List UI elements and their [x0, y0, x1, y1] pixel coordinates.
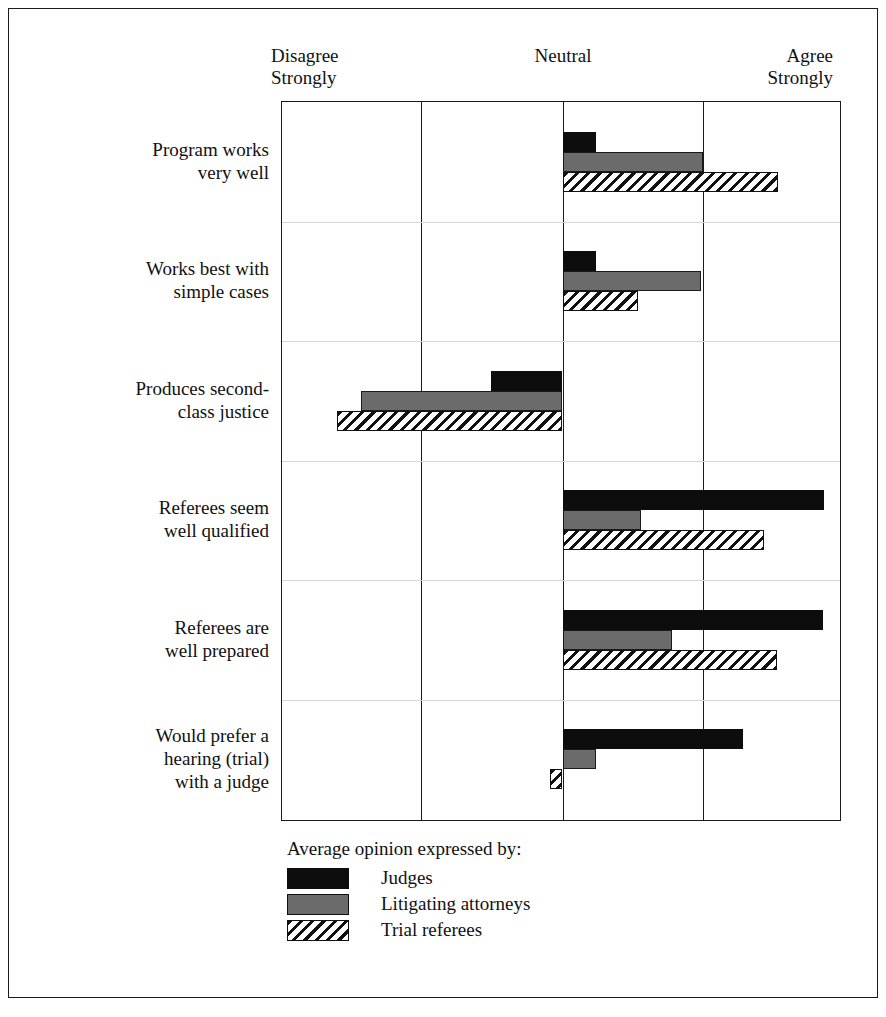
bar-judges: [563, 610, 823, 630]
row-separator: [282, 461, 840, 462]
category-label: Would prefer a hearing (trial) with a ju…: [64, 724, 269, 793]
category-label: Program works very well: [64, 138, 269, 184]
legend-swatch-judges: [287, 868, 349, 889]
legend-label: Litigating attorneys: [381, 893, 530, 915]
bar-attorneys: [361, 391, 563, 411]
bar-attorneys: [563, 510, 641, 530]
bar-referees: [563, 172, 779, 192]
bar-judges: [563, 729, 744, 749]
legend: Average opinion expressed by: JudgesLiti…: [287, 837, 707, 943]
bar-attorneys: [563, 630, 672, 650]
category-label: Works best with simple cases: [64, 257, 269, 303]
figure-frame: Disagree Strongly Neutral Agree Strongly…: [8, 8, 878, 998]
bar-referees: [563, 530, 765, 550]
legend-label: Trial referees: [381, 919, 482, 941]
legend-swatch-attorneys: [287, 894, 349, 915]
row-separator: [282, 222, 840, 223]
category-label: Referees seem well qualified: [64, 496, 269, 542]
legend-label: Judges: [381, 867, 433, 889]
legend-entry: Trial referees: [287, 917, 707, 943]
bar-referees: [563, 650, 777, 670]
bar-attorneys: [563, 152, 703, 172]
legend-rows: JudgesLitigating attorneysTrial referees: [287, 865, 707, 943]
axis-label-agree-strongly: Agree Strongly: [709, 45, 833, 89]
row-separator: [282, 700, 840, 701]
legend-title: Average opinion expressed by:: [287, 837, 707, 861]
category-label: Referees are well prepared: [64, 616, 269, 662]
plot-area: [281, 101, 841, 821]
bar-judges: [563, 490, 825, 510]
axis-label-disagree-strongly: Disagree Strongly: [271, 45, 421, 89]
category-label: Produces second- class justice: [64, 377, 269, 423]
category-label-column: Program works very wellWorks best with s…: [64, 101, 269, 821]
bar-referees: [337, 411, 562, 431]
bar-referees: [563, 291, 639, 311]
legend-swatch-referees: [287, 920, 349, 941]
bar-referees: [550, 769, 563, 789]
bar-attorneys: [563, 271, 702, 291]
bar-attorneys: [563, 749, 597, 769]
row-separator: [282, 580, 840, 581]
row-separator: [282, 341, 840, 342]
legend-entry: Judges: [287, 865, 707, 891]
bar-judges: [563, 251, 597, 271]
legend-entry: Litigating attorneys: [287, 891, 707, 917]
bar-judges: [491, 371, 562, 391]
bar-judges: [563, 132, 597, 152]
axis-label-neutral: Neutral: [493, 45, 633, 67]
